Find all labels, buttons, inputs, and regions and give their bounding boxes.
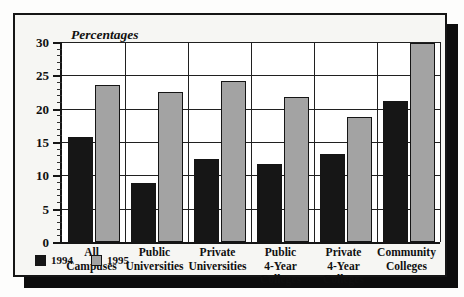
y-axis-tick-minor	[57, 162, 62, 163]
legend-swatch-1994	[35, 255, 46, 266]
bar-1995-public-4-year-colleges	[284, 97, 309, 242]
y-axis-tick-major	[53, 209, 62, 211]
group-separator-line	[314, 42, 315, 242]
y-axis-tick-label: 15	[19, 136, 49, 149]
bar-1994-community-colleges	[383, 101, 408, 242]
bar-1995-community-colleges	[410, 43, 435, 242]
y-axis-tick-major	[53, 42, 62, 44]
legend-item-1995: 1995	[91, 255, 129, 266]
plot-right-edge	[440, 42, 441, 242]
bar-1995-public-universities	[158, 92, 183, 242]
y-axis-tick-minor	[57, 82, 62, 83]
y-axis-tick-label: 5	[19, 203, 49, 216]
y-axis-tick-minor	[57, 49, 62, 50]
y-axis-tick-major	[53, 142, 62, 144]
bar-1995-private-4-year-colleges	[347, 117, 372, 242]
bar-1994-all-campuses	[68, 137, 93, 242]
y-axis-tick-label: 20	[19, 103, 49, 116]
y-axis-tick-label: 25	[19, 69, 49, 82]
legend-label-1995: 1995	[107, 255, 129, 266]
bar-1995-all-campuses	[95, 85, 120, 242]
y-axis-tick-minor	[57, 169, 62, 170]
x-axis-label-public-4-year-colleges: Public4-YearColleges	[249, 246, 312, 287]
y-axis-tick-minor	[57, 149, 62, 150]
y-axis-tick-minor	[57, 122, 62, 123]
group-separator-line	[251, 42, 252, 242]
bar-1994-public-4-year-colleges	[257, 164, 282, 242]
y-axis-tick-minor	[57, 89, 62, 90]
x-axis-label-private-4-year-colleges: Private4-YearColleges	[312, 246, 375, 287]
y-axis-tick-minor	[57, 115, 62, 116]
y-axis-tick-minor	[57, 55, 62, 56]
bar-1994-public-universities	[131, 183, 156, 242]
x-axis-label-private-universities: PrivateUniversities	[186, 246, 249, 273]
y-axis-labels: 051015202530	[15, 42, 49, 242]
y-axis-tick-minor	[57, 189, 62, 190]
y-axis-tick-minor	[57, 215, 62, 216]
y-axis-tick-minor	[57, 62, 62, 63]
y-axis-tick-label: 0	[19, 236, 49, 249]
y-axis-tick-major	[53, 175, 62, 177]
y-axis-tick-label: 30	[19, 36, 49, 49]
group-separator-line	[377, 42, 378, 242]
chart-legend: 19941995	[35, 253, 141, 267]
x-axis-label-line: Private	[312, 246, 375, 260]
y-axis-tick-minor	[57, 129, 62, 130]
y-axis-tick-minor	[57, 235, 62, 236]
y-axis-tick-minor	[57, 155, 62, 156]
chart-figure-frame: Percentages 051015202530 AllCampusesPubl…	[13, 13, 447, 277]
scanned-page: Percentages 051015202530 AllCampusesPubl…	[0, 0, 464, 297]
group-separator-line	[125, 42, 126, 242]
x-axis-label-line: Colleges	[375, 260, 438, 274]
y-axis-tick-minor	[57, 229, 62, 230]
y-axis-tick-major	[53, 109, 62, 111]
y-axis-tick-minor	[57, 69, 62, 70]
x-axis-label-line: Universities	[186, 260, 249, 274]
chart-title: Percentages	[71, 28, 138, 42]
y-axis-tick-minor	[57, 202, 62, 203]
legend-swatch-1995	[91, 255, 102, 266]
x-axis-label-community-colleges: CommunityColleges	[375, 246, 438, 273]
x-axis-label-line: 4-Year	[312, 260, 375, 274]
plot-area	[60, 42, 440, 244]
y-axis-tick-major	[53, 75, 62, 77]
x-axis-label-line: Public	[249, 246, 312, 260]
y-axis-tick-minor	[57, 102, 62, 103]
x-axis-label-line: 4-Year	[249, 260, 312, 274]
x-axis-label-line: Private	[186, 246, 249, 260]
y-axis-tick-label: 10	[19, 169, 49, 182]
x-axis-label-line: Colleges	[312, 273, 375, 287]
y-axis-tick-minor	[57, 95, 62, 96]
legend-item-1994: 1994	[35, 255, 73, 266]
x-axis-label-line: Colleges	[249, 273, 312, 287]
y-axis-tick-minor	[57, 135, 62, 136]
y-axis-tick-major	[53, 242, 62, 244]
y-axis-tick-minor	[57, 195, 62, 196]
y-axis-tick-minor	[57, 222, 62, 223]
bar-1995-private-universities	[221, 81, 246, 242]
bar-1994-private-universities	[194, 159, 219, 242]
y-axis-tick-minor	[57, 182, 62, 183]
group-separator-line	[188, 42, 189, 242]
legend-label-1994: 1994	[51, 255, 73, 266]
bar-1994-private-4-year-colleges	[320, 154, 345, 242]
x-axis-label-line: Community	[375, 246, 438, 260]
